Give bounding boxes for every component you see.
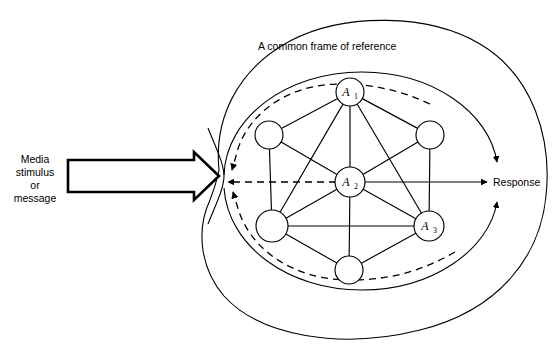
network-edge (362, 99, 417, 129)
network-edge (281, 142, 337, 174)
node-label-subscript: 2 (354, 182, 358, 191)
node-circle[interactable] (336, 78, 364, 106)
node-label: A (341, 175, 350, 189)
node-label-subscript: 3 (433, 226, 437, 235)
media-stimulus-line: message (14, 192, 57, 204)
node-label: A (341, 85, 350, 99)
network-edge (280, 104, 343, 212)
network-edge (286, 189, 337, 218)
media-stimulus-line: or (30, 179, 40, 191)
network-node-n_ur[interactable] (416, 121, 444, 149)
media-stimulus-line: stimulus (16, 166, 55, 178)
node-label-subscript: 1 (354, 92, 358, 101)
network-node-n_mid[interactable]: A2 (335, 167, 365, 197)
network-edge (363, 142, 418, 174)
network-node-n_top[interactable]: A1 (336, 78, 364, 106)
network-node-n_ul[interactable] (255, 121, 283, 149)
network-edge (269, 149, 271, 210)
node-circle[interactable] (256, 210, 288, 242)
response-label: Response (493, 176, 540, 188)
node-label: A (420, 219, 429, 233)
diagram-canvas: A1A2A3 A common frame of reference Respo… (0, 0, 558, 356)
node-circle[interactable] (416, 121, 444, 149)
node-circle[interactable] (255, 121, 283, 149)
network-node-n_bot[interactable] (335, 256, 363, 284)
node-circle[interactable] (335, 167, 365, 197)
media-input-block-arrow (68, 152, 219, 200)
network-edge (363, 189, 416, 218)
frame-of-reference-title: A common frame of reference (258, 40, 396, 52)
network-edge (429, 149, 430, 211)
network-edge (286, 234, 337, 263)
node-circle[interactable] (335, 256, 363, 284)
diagram-root: A1A2A3 A common frame of reference Respo… (0, 0, 558, 356)
network-node-n_lr[interactable]: A3 (414, 211, 444, 241)
media-stimulus-line: Media (21, 153, 50, 165)
network-node-n_ll[interactable] (256, 210, 288, 242)
node-circle[interactable] (414, 211, 444, 241)
network-edge (281, 99, 337, 129)
network-edge (361, 233, 416, 263)
media-stimulus-label: Mediastimulusormessage (14, 153, 57, 204)
